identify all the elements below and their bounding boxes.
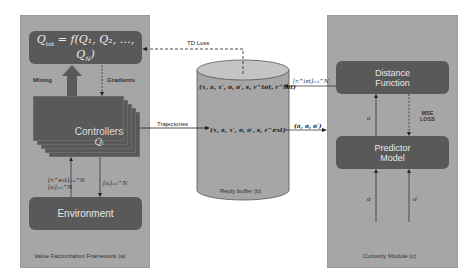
td-loss-label: TD Loss bbox=[187, 40, 209, 46]
intrinsic-reward-label: [rᵢ^int]ᵢ₌₁^N bbox=[293, 78, 329, 84]
trajectories-label: Trajectories bbox=[157, 121, 188, 127]
replay-buffer-caption: Reply buffer (b) bbox=[220, 188, 261, 194]
replay-top-tuple: (τ, a, τ′, o, o′, s, r^tot, r^int) bbox=[199, 83, 296, 90]
replay-mid-tuple: (τ, a, τ′, o, o′, s, r^ext) bbox=[210, 126, 286, 133]
sample-label: (a, o, o′) bbox=[294, 122, 322, 129]
diagram-edges bbox=[0, 0, 476, 277]
